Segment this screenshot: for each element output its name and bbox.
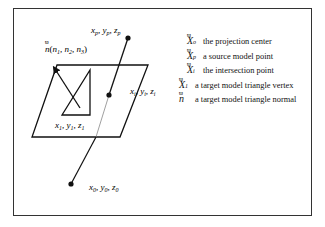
intersection-label: xi, yi, zi bbox=[129, 86, 156, 97]
vertex-label: x1, y1, z1 bbox=[54, 120, 85, 131]
legend-item-triangle-normal: ϖna target model triangle normal bbox=[179, 92, 296, 107]
center-point bbox=[68, 181, 73, 186]
source-point-label: xp, yp, zp bbox=[90, 25, 121, 36]
legend-item-source-point: ϖXpa source model point bbox=[187, 49, 296, 64]
normal-label: n(n1, n2, n3) bbox=[45, 44, 87, 55]
source-point bbox=[125, 35, 130, 40]
ray-lower bbox=[71, 137, 96, 184]
legend: ϖXothe projection center ϖXpa source mod… bbox=[187, 34, 296, 107]
ray-hidden bbox=[96, 95, 109, 137]
legend-item-intersection-point: ϖXithe intersection point bbox=[187, 63, 296, 78]
legend-item-projection-center: ϖXothe projection center bbox=[187, 34, 296, 49]
vector-symbol: ϖXi bbox=[187, 63, 200, 78]
target-triangle bbox=[62, 70, 90, 115]
normal-arrow bbox=[55, 69, 80, 108]
legend-item-triangle-vertex: ϖX1a target model triangle vertex bbox=[179, 78, 296, 93]
intersection-point bbox=[106, 92, 111, 97]
center-label: x0, y0, z0 bbox=[88, 182, 119, 193]
ray-upper bbox=[109, 38, 128, 95]
vector-symbol: ϖn bbox=[179, 92, 192, 107]
